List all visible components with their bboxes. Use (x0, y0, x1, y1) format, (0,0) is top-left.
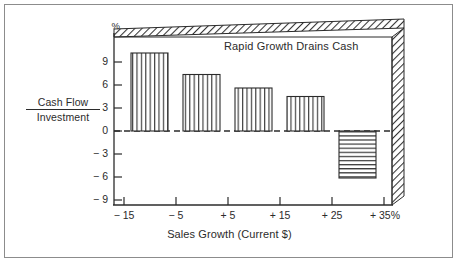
x-tick-label-neg5: − 5 (150, 209, 202, 221)
bar-5 (339, 131, 376, 178)
right-wall-icon (392, 28, 404, 205)
chart-screenshot: % 9 6 3 0 − 3 − 6 − 9 − 15 − 5 + 5 + 15 … (0, 0, 459, 264)
x-axis-title: Sales Growth (Current $) (0, 228, 459, 240)
bar-4 (287, 97, 324, 132)
y-tick-label-neg6: − 6 (76, 170, 108, 182)
x-tick-label-pos5: + 5 (202, 209, 254, 221)
bar-1 (131, 53, 168, 131)
y-tick-label-6: 6 (82, 78, 108, 90)
x-tick-label-pos15: + 15 (254, 209, 306, 221)
y-tick-label-neg9: − 9 (76, 193, 108, 205)
chart-plot-area: % 9 6 3 0 − 3 − 6 − 9 − 15 − 5 + 5 + 15 … (0, 0, 459, 264)
y-axis-title: Cash Flow Investment (26, 96, 100, 123)
y-tick-label-neg3: − 3 (76, 147, 108, 159)
bar-3 (235, 88, 272, 131)
top-panel-icon (114, 19, 404, 37)
bar-2 (183, 75, 220, 132)
chart-title: Rapid Growth Drains Cash (224, 40, 358, 52)
y-tick-label-9: 9 (82, 55, 108, 67)
y-tick-label-0: 0 (82, 124, 108, 136)
y-axis-title-numerator: Cash Flow (26, 96, 100, 110)
x-tick-label-neg15: − 15 (98, 209, 150, 221)
x-axis-ticks (124, 197, 384, 205)
x-tick-label-pos35: + 35% (357, 209, 413, 221)
y-axis-title-denominator: Investment (26, 110, 100, 123)
y-axis-unit-label: % (98, 20, 120, 31)
x-tick-label-pos25: + 25 (306, 209, 358, 221)
